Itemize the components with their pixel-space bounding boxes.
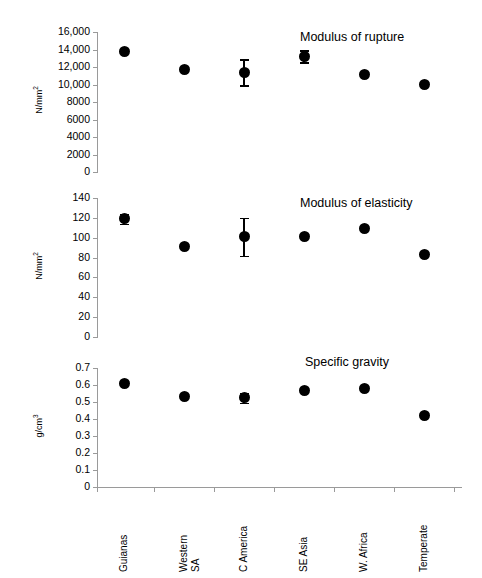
y-tick-mark [93, 385, 97, 386]
x-tick-label: SA [190, 500, 201, 572]
chart-panel-3: 00.10.20.30.40.50.60.7g/cm3Specific grav… [0, 0, 482, 578]
data-point [119, 378, 130, 389]
panel-title: Specific gravity [305, 355, 389, 369]
x-tick-label-group-3: SE Asia [298, 498, 312, 574]
data-point [299, 385, 310, 396]
x-tick-mark [274, 487, 275, 492]
x-tick-label-group-1: WesternSA [178, 498, 192, 574]
x-tick-label-group-5: Temperate [418, 498, 432, 574]
y-tick-label: 0.6 [35, 379, 90, 389]
y-axis-label: g/cm3 [32, 390, 44, 462]
y-tick-mark [93, 419, 97, 420]
x-tick-mark [334, 487, 335, 492]
data-point [239, 392, 250, 403]
x-tick-mark [454, 487, 455, 492]
data-point [359, 383, 370, 394]
y-tick-mark [93, 453, 97, 454]
y-tick-mark [93, 470, 97, 471]
x-tick-label: Western [178, 500, 189, 572]
x-tick-label-group-2: C America [238, 498, 252, 574]
x-tick-mark [154, 487, 155, 492]
y-tick-mark [93, 402, 97, 403]
x-tick-label: Temperate [418, 500, 429, 572]
x-tick-label: Guianas [118, 500, 129, 572]
x-tick-label: SE Asia [298, 500, 309, 572]
y-tick-mark [93, 436, 97, 437]
data-point [179, 391, 190, 402]
y-tick-mark [93, 368, 97, 369]
x-tick-mark [214, 487, 215, 492]
y-tick-label: 0 [35, 481, 90, 491]
figure-container: 0200040006000800010,00012,00014,00016,00… [0, 0, 482, 578]
data-point [419, 410, 430, 421]
x-tick-label: C America [238, 500, 249, 572]
y-tick-label: 0.7 [35, 362, 90, 372]
x-tick-label: W. Africa [358, 500, 369, 572]
x-tick-mark [97, 487, 98, 492]
x-tick-label-group-4: W. Africa [358, 498, 372, 574]
x-tick-label-group-0: Guianas [118, 498, 132, 574]
x-tick-mark [394, 487, 395, 492]
y-tick-label: 0.1 [35, 464, 90, 474]
error-bar-cap-lower [240, 403, 249, 405]
x-axis-line [97, 487, 462, 488]
y-axis-line [97, 368, 98, 488]
